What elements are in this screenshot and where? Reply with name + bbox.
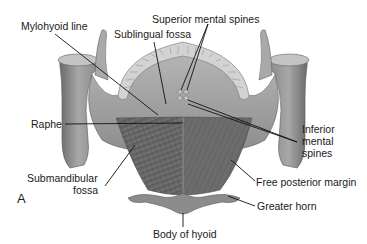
label-inferior-mental-spines-line1: Inferior (302, 123, 335, 135)
label-inferior-mental-spines-line3: spines (302, 147, 332, 159)
label-inferior-mental-spines-line2: mental (302, 135, 334, 147)
mylohyoid-right (183, 117, 252, 195)
label-body-of-hyoid: Body of hyoid (153, 228, 217, 240)
hyoid-bone (128, 193, 240, 214)
mylohyoid-left (116, 117, 183, 195)
label-superior-mental-spines: Superior mental spines (152, 13, 259, 25)
label-greater-horn: Greater horn (257, 200, 317, 212)
label-free-posterior-margin: Free posterior margin (256, 176, 356, 188)
label-mylohyoid-line: Mylohyoid line (21, 20, 88, 32)
panel-letter: A (17, 191, 26, 206)
label-submandibular-fossa-line2: fossa (73, 184, 98, 196)
label-submandibular-fossa-line1: Submandibular (27, 172, 98, 184)
label-raphe: Raphe (31, 118, 62, 130)
label-sublingual-fossa: Sublingual fossa (114, 28, 191, 40)
